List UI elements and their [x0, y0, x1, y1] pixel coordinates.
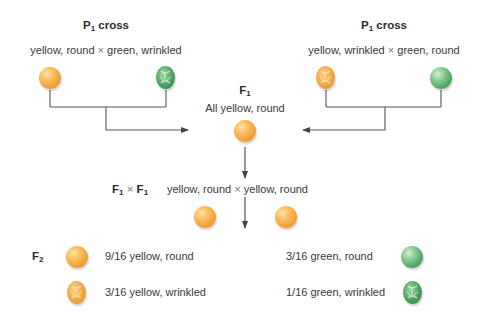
yellow-wrinkled-pea-icon — [316, 66, 335, 89]
yellow-round-pea-icon — [66, 246, 88, 268]
generation-subscript: 1 — [119, 188, 123, 197]
right-p1-cross-text: yellow, wrinkled × green, round — [308, 44, 459, 56]
f1-cross-label: F1 × F1 — [112, 183, 148, 197]
generation-letter: P — [83, 19, 91, 31]
f2-result: 3/16 green, round — [286, 250, 373, 262]
yellow-wrinkled-pea-icon — [67, 281, 86, 304]
green-wrinkled-pea-icon — [156, 66, 175, 89]
f2-result: 9/16 yellow, round — [105, 250, 194, 262]
right-p1-bracket — [303, 90, 441, 130]
f2-label: F2 — [32, 250, 43, 264]
left-p1-cross-text: yellow, round × green, wrinkled — [30, 44, 181, 56]
f2-result: 1/16 green, wrinkled — [286, 286, 385, 298]
cross-symbol: × — [234, 183, 240, 195]
cross-symbol: × — [388, 44, 394, 56]
f1-label: F1 — [239, 84, 250, 98]
left-p1-bracket — [50, 90, 188, 130]
parent-a-phenotype: yellow, wrinkled — [308, 44, 384, 56]
generation-letter: F — [112, 183, 119, 195]
generation-letter: F — [239, 84, 246, 96]
cross-symbol: × — [98, 44, 104, 56]
left-p1-title: P1 cross — [83, 19, 129, 33]
green-round-pea-icon — [430, 67, 452, 89]
green-wrinkled-pea-icon — [403, 281, 422, 304]
yellow-round-pea-icon — [275, 206, 297, 228]
parent-b-phenotype: green, round — [397, 44, 459, 56]
yellow-round-pea-icon — [234, 120, 256, 142]
title-suffix: cross — [95, 19, 129, 31]
right-p1-title: P1 cross — [361, 19, 407, 33]
f1-cross-text: yellow, round × yellow, round — [167, 183, 308, 195]
title-suffix: cross — [373, 19, 407, 31]
parent-b-phenotype: green, wrinkled — [107, 44, 182, 56]
generation-subscript: 2 — [39, 255, 43, 264]
parent-b-phenotype: yellow, round — [244, 183, 308, 195]
parent-a-phenotype: yellow, round — [167, 183, 231, 195]
parent-a-phenotype: yellow, round — [30, 44, 94, 56]
cross-symbol: × — [127, 183, 134, 195]
f2-result: 3/16 yellow, wrinkled — [105, 286, 206, 298]
yellow-round-pea-icon — [194, 206, 216, 228]
yellow-round-pea-icon — [39, 67, 61, 89]
generation-subscript: 1 — [144, 188, 148, 197]
green-round-pea-icon — [401, 246, 423, 268]
generation-letter: P — [361, 19, 369, 31]
f1-description: All yellow, round — [205, 102, 285, 114]
generation-letter: F — [137, 183, 144, 195]
generation-letter: F — [32, 250, 39, 262]
generation-subscript: 1 — [246, 89, 250, 98]
